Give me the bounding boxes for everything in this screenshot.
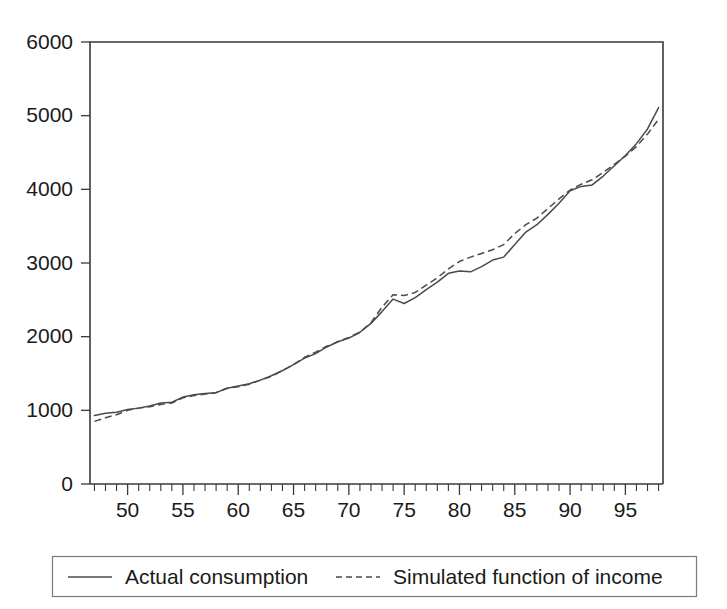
- x-axis: 50556065707580859095: [90, 484, 663, 521]
- y-tick-label: 4000: [26, 177, 73, 200]
- legend-label-actual: Actual consumption: [125, 565, 308, 588]
- y-axis: 0100020003000400050006000: [26, 30, 90, 495]
- x-tick-label: 95: [614, 498, 637, 521]
- y-tick-label: 3000: [26, 251, 73, 274]
- x-tick-label: 50: [116, 498, 139, 521]
- series-simulated-function-of-income: [94, 119, 658, 421]
- y-tick-label: 5000: [26, 103, 73, 126]
- chart-figure: 0100020003000400050006000 50556065707580…: [0, 0, 727, 609]
- y-tick-label: 0: [61, 472, 73, 495]
- consumption-line-chart: 0100020003000400050006000 50556065707580…: [0, 0, 727, 609]
- x-tick-label: 85: [503, 498, 526, 521]
- y-tick-label: 6000: [26, 30, 73, 53]
- legend-label-simulated: Simulated function of income: [393, 565, 663, 588]
- chart-legend: Actual consumption Simulated function of…: [53, 557, 697, 597]
- y-tick-label: 1000: [26, 398, 73, 421]
- series-actual-consumption: [94, 108, 658, 416]
- x-tick-label: 60: [227, 498, 250, 521]
- axis-frame-path: [90, 42, 663, 484]
- data-series-group: [94, 108, 658, 422]
- x-tick-label: 90: [558, 498, 581, 521]
- plot-frame: [90, 42, 663, 484]
- y-tick-label: 2000: [26, 324, 73, 347]
- x-tick-label: 80: [448, 498, 471, 521]
- x-tick-label: 55: [171, 498, 194, 521]
- x-tick-label: 75: [392, 498, 415, 521]
- x-tick-label: 70: [337, 498, 360, 521]
- x-tick-label: 65: [282, 498, 305, 521]
